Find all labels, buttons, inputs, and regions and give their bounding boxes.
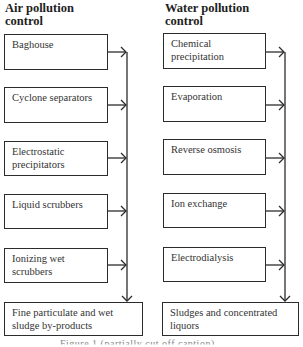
air-box-electrostatic-precipitators: Electrostatic precipitators [4, 141, 108, 176]
air-box-baghouse: Baghouse [4, 34, 108, 70]
water-box-evaporation: Evaporation [163, 86, 266, 122]
air-box-liquid-scrubbers: Liquid scrubbers [4, 194, 108, 229]
water-box-chemical-precipitation: Chemical precipitation [163, 33, 266, 69]
water-output-box: Sludges and concentrated liquors [162, 302, 299, 336]
air-output-box: Fine particulate and wet sludge by-produ… [4, 302, 143, 336]
water-box-ion-exchange: Ion exchange [163, 193, 266, 228]
water-box-reverse-osmosis: Reverse osmosis [163, 139, 266, 175]
air-box-cyclone-separators: Cyclone separators [4, 87, 108, 123]
water-box-electrodialysis: Electrodialysis [163, 247, 266, 282]
air-box-ionizing-wet-scrubbers: Ionizing wet scrubbers [4, 248, 108, 283]
